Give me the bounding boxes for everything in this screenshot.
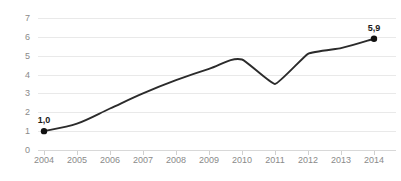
- data-point-labels: 1,05,9: [38, 23, 381, 125]
- x-tick-label: 2013: [331, 155, 351, 165]
- series-line: [44, 39, 374, 131]
- data-point-label: 5,9: [368, 23, 381, 33]
- gridlines: [38, 19, 396, 151]
- y-tick-label: 1: [25, 126, 30, 136]
- y-tick-label: 7: [25, 13, 30, 23]
- x-tick-label: 2007: [133, 155, 153, 165]
- y-tick-label: 4: [25, 70, 30, 80]
- x-tick-label: 2010: [232, 155, 252, 165]
- x-tick-label: 2012: [298, 155, 318, 165]
- data-series: [44, 39, 374, 131]
- x-tick-label: 2006: [100, 155, 120, 165]
- chart-canvas: 01234567 2004200520062007200820092010201…: [0, 0, 401, 181]
- data-point-label: 1,0: [38, 115, 51, 125]
- data-point-marker: [41, 128, 47, 134]
- x-tick-label: 2011: [265, 155, 284, 165]
- y-tick-label: 2: [25, 107, 30, 117]
- x-tick-label: 2005: [67, 155, 87, 165]
- y-axis-tick-labels: 01234567: [25, 13, 30, 155]
- x-tick-label: 2009: [199, 155, 219, 165]
- data-point-marker: [371, 36, 377, 42]
- x-axis-tick-labels: 2004200520062007200820092010201120122013…: [34, 155, 384, 165]
- y-tick-label: 6: [25, 32, 30, 42]
- y-tick-label: 5: [25, 51, 30, 61]
- x-tick-label: 2008: [166, 155, 186, 165]
- y-tick-label: 3: [25, 88, 30, 98]
- y-tick-label: 0: [25, 145, 30, 155]
- x-tick-label: 2014: [364, 155, 384, 165]
- axis-ticks: [45, 151, 375, 155]
- x-tick-label: 2004: [34, 155, 54, 165]
- line-chart: 01234567 2004200520062007200820092010201…: [0, 0, 401, 181]
